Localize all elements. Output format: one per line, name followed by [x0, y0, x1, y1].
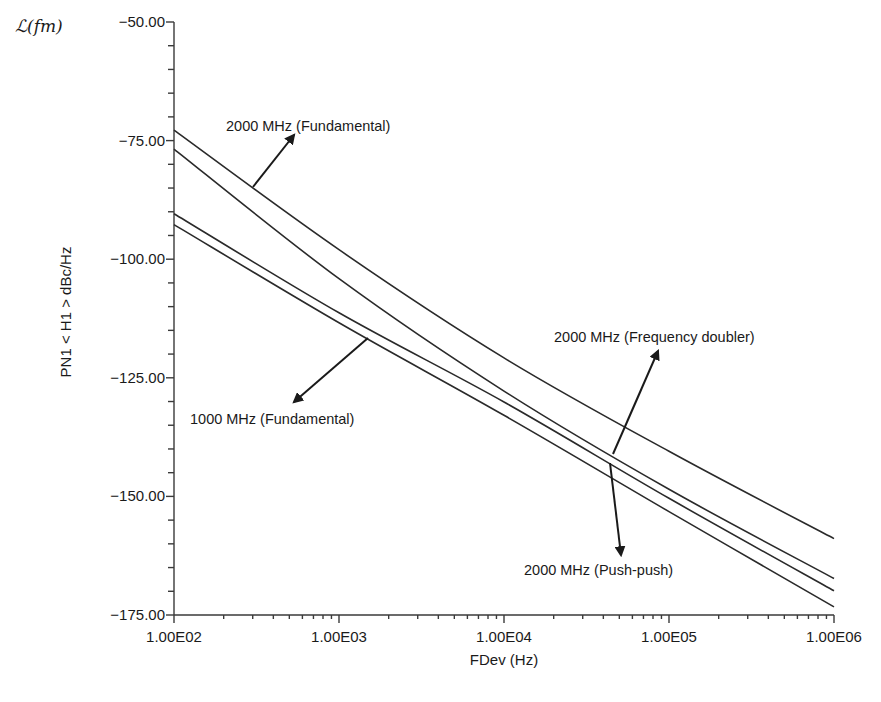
annotation-arrow [613, 351, 658, 454]
x-axis: 1.00E021.00E031.00E041.00E051.00E06 [146, 615, 862, 645]
y-tick-label: −75.00 [119, 132, 165, 149]
x-axis-ticks: 1.00E021.00E031.00E041.00E051.00E06 [146, 615, 862, 645]
y-axis: −50.00−75.00−100.00−125.00−150.00−175.00 [110, 13, 174, 623]
y-axis-title: PN1 < H1 > dBc/Hz [57, 247, 74, 378]
annotation-label: 1000 MHz (Fundamental) [190, 411, 354, 427]
x-tick-label: 1.00E04 [476, 628, 532, 645]
phase-noise-chart: ℒ(fm) −50.00−75.00−100.00−125.00−150.00−… [0, 0, 881, 702]
annotation-arrow [610, 463, 621, 555]
y-axis-ticks: −50.00−75.00−100.00−125.00−150.00−175.00 [110, 13, 174, 623]
annotation-arrow [253, 135, 294, 187]
annotation-label: 2000 MHz (Push-push) [524, 562, 673, 578]
annotations: 2000 MHz (Fundamental)2000 MHz (Frequenc… [190, 118, 755, 578]
annotation-arrow [294, 338, 368, 402]
y-tick-label: −125.00 [110, 369, 165, 386]
y-tick-label: −150.00 [110, 487, 165, 504]
x-tick-label: 1.00E05 [641, 628, 697, 645]
curves [174, 130, 834, 607]
series-curve-2 [174, 214, 834, 591]
annotation-label: 2000 MHz (Fundamental) [226, 118, 390, 134]
x-tick-label: 1.00E06 [806, 628, 862, 645]
y-tick-label: −100.00 [110, 250, 165, 267]
x-axis-title: FDev (Hz) [470, 651, 538, 668]
x-tick-label: 1.00E02 [146, 628, 202, 645]
y-tick-label: −50.00 [119, 13, 165, 30]
corner-symbol: ℒ(fm) [15, 16, 63, 36]
y-tick-label: −175.00 [110, 606, 165, 623]
series-curve-1 [174, 149, 834, 578]
annotation-label: 2000 MHz (Frequency doubler) [554, 329, 755, 345]
x-tick-label: 1.00E03 [311, 628, 367, 645]
